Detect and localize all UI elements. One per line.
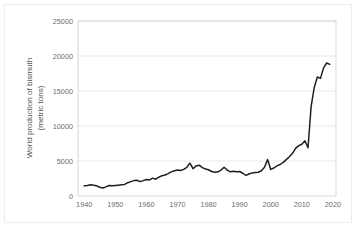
chart-figure: 0 5000 10000 15000 20000 25000 1940 1950… [0, 0, 360, 234]
y-tick-15000: 15000 [53, 87, 73, 96]
x-tick-1980: 1980 [200, 200, 216, 209]
y-axis-title: World production of bismuth (metric tons… [25, 58, 45, 159]
x-tick-2020: 2020 [325, 200, 341, 209]
y-axis-title-line1: World production of bismuth [25, 58, 34, 159]
x-tick-1960: 1960 [138, 200, 154, 209]
data-series-line [84, 63, 330, 188]
y-tick-labels: 0 5000 10000 15000 20000 25000 [53, 17, 73, 201]
x-tick-1970: 1970 [169, 200, 185, 209]
y-axis-title-line2: (metric tons) [36, 85, 45, 130]
y-tick-10000: 10000 [53, 122, 73, 131]
y-tick-5000: 5000 [57, 157, 73, 166]
x-tick-1940: 1940 [76, 200, 92, 209]
x-tick-1950: 1950 [107, 200, 123, 209]
x-tick-2010: 2010 [294, 200, 310, 209]
x-tick-1990: 1990 [231, 200, 247, 209]
x-tick-labels: 1940 1950 1960 1970 1980 1990 2000 2010 … [76, 200, 341, 209]
gridlines [78, 21, 336, 161]
x-tick-2000: 2000 [263, 200, 279, 209]
y-tick-20000: 20000 [53, 52, 73, 61]
y-tick-0: 0 [69, 192, 73, 201]
y-tick-25000: 25000 [53, 17, 73, 26]
line-chart: 0 5000 10000 15000 20000 25000 1940 1950… [0, 0, 360, 234]
